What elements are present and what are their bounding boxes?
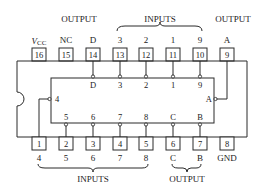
inner-label-8: 8 xyxy=(144,112,148,122)
pin-number-15: 15 xyxy=(62,50,71,60)
top-pin-label-d: D xyxy=(90,35,97,45)
top-pin-label-a: A xyxy=(224,35,231,45)
inner-logic-box xyxy=(51,78,214,123)
inner-label-6: 6 xyxy=(91,112,95,122)
inner-label-b: B xyxy=(197,112,203,122)
bottom-inputs-group-label: INPUTS xyxy=(77,174,109,184)
pin-number-5: 5 xyxy=(144,139,148,149)
pin-number-12: 12 xyxy=(142,50,151,60)
top-output-a-group-label: OUTPUT xyxy=(215,14,251,24)
inversion-bubble xyxy=(171,123,174,126)
vcc-sub: CC xyxy=(37,39,47,47)
inner-label-d: D xyxy=(90,80,96,90)
pin-number-1: 1 xyxy=(37,139,41,149)
top-pin-label-9: 9 xyxy=(198,35,203,45)
pin-number-14: 14 xyxy=(89,50,98,60)
inversion-bubble xyxy=(118,75,121,78)
top-internal-wires xyxy=(91,61,201,78)
pin-number-7: 7 xyxy=(198,139,202,149)
inversion-bubble xyxy=(171,75,174,78)
pin-number-6: 6 xyxy=(171,139,175,149)
bottom-pin-label-6: 6 xyxy=(91,153,96,163)
pin9-wire xyxy=(214,61,227,101)
bottom-output-brace xyxy=(172,164,201,172)
pin-number-3: 3 xyxy=(91,139,95,149)
pin-number-10: 10 xyxy=(196,50,205,60)
inversion-bubble xyxy=(214,97,217,100)
top-pin-label-3: 3 xyxy=(118,35,123,45)
inner-label-1: 1 xyxy=(171,80,175,90)
bottom-pin-label-8: 8 xyxy=(144,153,149,163)
inner-label-9: 9 xyxy=(198,80,202,90)
inversion-bubble xyxy=(91,75,94,78)
bottom-pin-label-c: C xyxy=(170,153,176,163)
pin-number-8: 8 xyxy=(225,139,229,149)
inner-label-c: C xyxy=(170,112,176,122)
pin-number-2: 2 xyxy=(64,139,68,149)
pin-number-11: 11 xyxy=(169,50,177,60)
bottom-pin-label-gnd: GND xyxy=(217,153,237,163)
inner-label-4: 4 xyxy=(55,94,60,104)
pin1-wire xyxy=(39,97,51,137)
top-pin-label-2: 2 xyxy=(144,35,149,45)
inner-label-a: A xyxy=(206,94,213,104)
bottom-pins xyxy=(32,137,234,150)
bottom-pin-label-b: B xyxy=(197,153,203,163)
inversion-bubble xyxy=(144,123,147,126)
inner-label-3: 3 xyxy=(118,80,122,90)
bottom-internal-wires xyxy=(64,123,201,137)
inversion-bubble xyxy=(118,123,121,126)
inner-label-2: 2 xyxy=(144,80,148,90)
inversion-bubble xyxy=(198,123,201,126)
pin-number-16: 16 xyxy=(35,50,44,60)
bottom-inputs-brace xyxy=(38,164,148,172)
top-pin-label-nc: NC xyxy=(60,35,73,45)
pin-number-9: 9 xyxy=(225,50,229,60)
inversion-bubble xyxy=(144,75,147,78)
bottom-pin-label-5: 5 xyxy=(64,153,69,163)
bottom-pin-label-7: 7 xyxy=(118,153,123,163)
top-pin-label-vcc: VCC xyxy=(32,36,47,47)
bottom-output-group-label: OUTPUT xyxy=(169,174,205,184)
ic-pinout-diagram: OUTPUT INPUTS OUTPUT VCC NC D 3 2 1 9 A … xyxy=(0,0,257,192)
top-inputs-brace xyxy=(117,22,202,31)
bottom-pin-label-4: 4 xyxy=(37,153,42,163)
top-pin-label-1: 1 xyxy=(171,35,176,45)
inversion-bubble xyxy=(91,123,94,126)
inversion-bubble xyxy=(198,75,201,78)
top-output-group-label: OUTPUT xyxy=(61,14,97,24)
inversion-bubble xyxy=(48,97,51,100)
pin-number-13: 13 xyxy=(116,50,125,60)
inversion-bubble xyxy=(64,123,67,126)
inner-label-5: 5 xyxy=(64,112,68,122)
inner-label-7: 7 xyxy=(118,112,122,122)
